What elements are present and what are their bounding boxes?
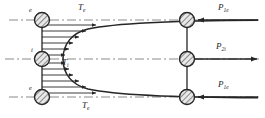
label-force-top: P1e bbox=[218, 3, 229, 13]
profile-curve-lower bbox=[63, 59, 258, 98]
label-force-bottom: P1e bbox=[218, 80, 229, 90]
label-node-left-mid: i bbox=[31, 47, 33, 54]
node-left-mid bbox=[35, 52, 50, 67]
node-right-mid bbox=[180, 52, 195, 67]
node-right-top bbox=[180, 13, 195, 28]
node-right-bottom bbox=[180, 90, 195, 105]
label-node-left-top: e bbox=[29, 7, 32, 14]
diagram-svg bbox=[0, 0, 265, 118]
diagram-canvas: e i e Te Ti Te P1e P2i P1e bbox=[0, 0, 265, 118]
node-left-top bbox=[35, 13, 50, 28]
profile-curve-upper bbox=[63, 20, 258, 59]
label-temperature-top: Te bbox=[78, 3, 86, 13]
label-temperature-bottom: Te bbox=[82, 101, 90, 111]
node-left-bottom bbox=[35, 90, 50, 105]
label-force-mid: P2i bbox=[216, 42, 226, 52]
label-node-left-bottom: e bbox=[29, 85, 32, 92]
label-temperature-mid: Ti bbox=[62, 58, 69, 68]
